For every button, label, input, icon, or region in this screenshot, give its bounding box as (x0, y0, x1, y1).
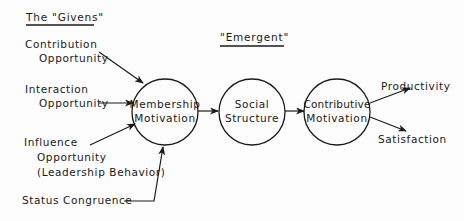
givens-heading: The "Givens" (25, 11, 104, 25)
input-status-congruence: Status Congruence (22, 194, 132, 206)
output-satisfaction: Satisfaction (378, 133, 447, 145)
svg-text:Opportunity: Opportunity (39, 52, 109, 64)
input-interaction-opportunity: Interaction Opportunity (25, 83, 109, 109)
givens-heading-text: The "Givens" (25, 11, 104, 23)
svg-text:Contributive: Contributive (303, 98, 370, 110)
emergent-heading-text: "Emergent" (220, 31, 289, 43)
node-membership-motivation: Membership Motivation (130, 79, 201, 145)
input-contribution-opportunity: Contribution Opportunity (25, 38, 109, 64)
arrow-to-satisfaction (370, 117, 406, 131)
node-contributive-motivation: Contributive Motivation (303, 79, 370, 145)
emergent-heading: "Emergent" (220, 31, 289, 46)
svg-text:Contribution: Contribution (25, 38, 97, 50)
node-social-structure: Social Structure (219, 79, 285, 145)
diagram-canvas: The "Givens" "Emergent" Contribution Opp… (0, 0, 464, 221)
svg-text:Opportunity: Opportunity (39, 97, 109, 109)
arrow-contribution-to-membership (99, 52, 143, 83)
svg-text:Interaction: Interaction (25, 83, 89, 95)
svg-text:Opportunity: Opportunity (37, 151, 107, 163)
arrow-influence-to-membership (90, 124, 135, 145)
svg-text:Motivation: Motivation (306, 112, 367, 124)
svg-text:Motivation: Motivation (134, 112, 195, 124)
svg-text:Membership: Membership (130, 98, 201, 110)
svg-text:Social: Social (235, 98, 270, 110)
output-productivity: Productivity (381, 80, 450, 92)
svg-text:Status Congruence: Status Congruence (22, 194, 132, 206)
svg-text:Influence: Influence (24, 136, 78, 148)
svg-text:Structure: Structure (225, 112, 279, 124)
svg-text:(Leadership Behavior): (Leadership Behavior) (37, 166, 165, 178)
